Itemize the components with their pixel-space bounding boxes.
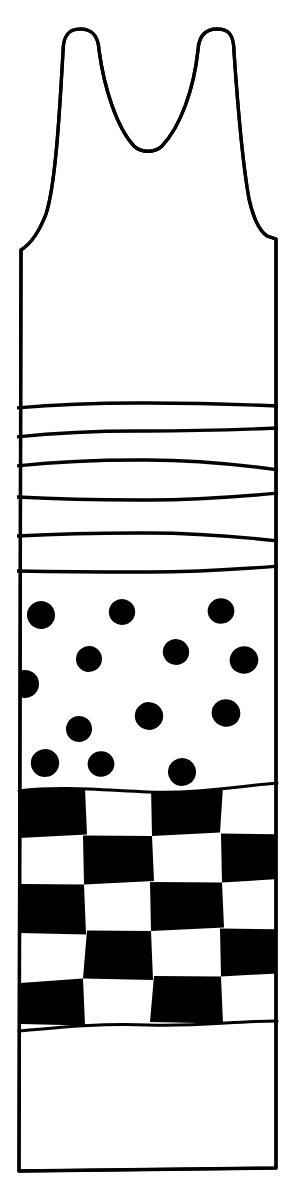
checkerboard-square xyxy=(20,979,85,1026)
illustration-canvas xyxy=(0,0,295,1178)
checkerboard-square xyxy=(83,836,154,885)
checkerboard-square xyxy=(150,882,224,931)
checkerboard-square xyxy=(221,834,278,883)
checkerboard-square xyxy=(220,929,279,977)
checkerboard-square xyxy=(17,884,86,935)
garment-illustration xyxy=(0,0,295,1178)
checkerboard-square xyxy=(83,931,153,981)
checkerboard-square xyxy=(150,976,223,1023)
checkerboard-square xyxy=(17,788,87,838)
